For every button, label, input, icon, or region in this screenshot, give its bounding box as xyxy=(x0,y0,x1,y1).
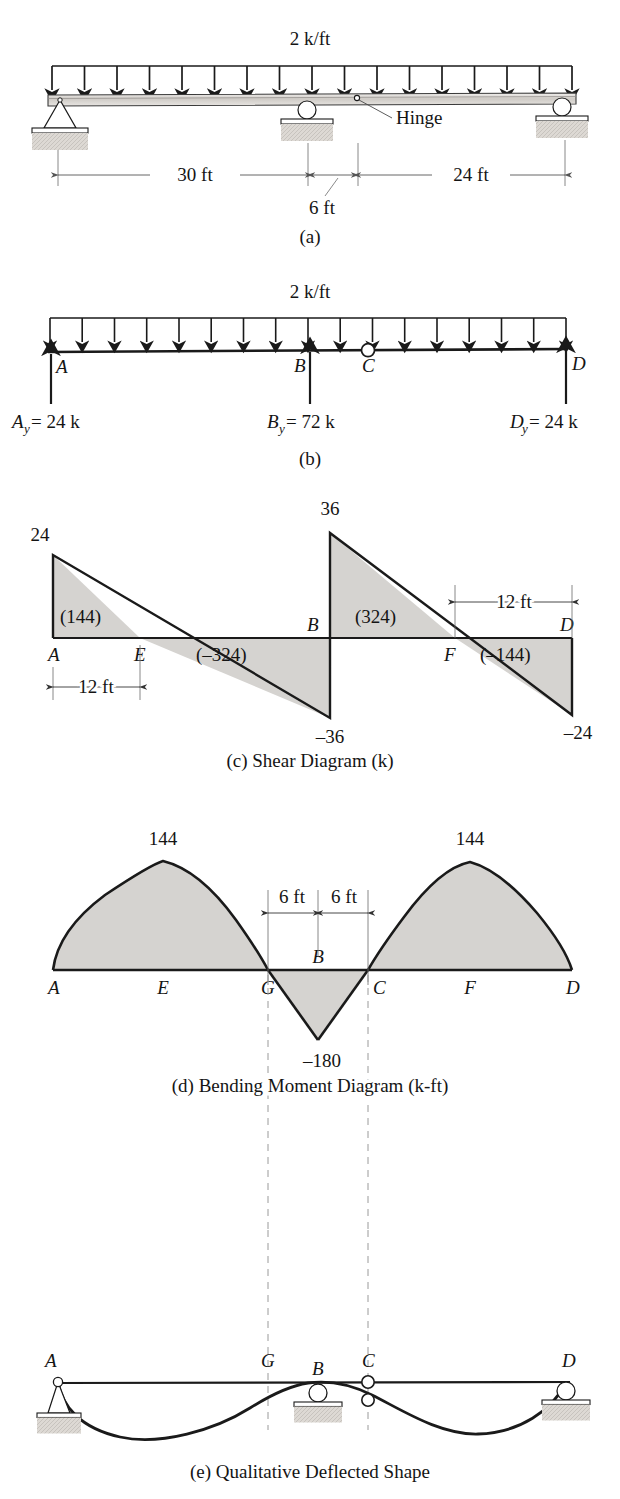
shear-dim-right-label: 12 ft xyxy=(496,591,532,612)
reaction-label-ay: A y = 24 k xyxy=(10,411,80,436)
moment-point-e: E xyxy=(156,977,169,998)
joint-label-d: D xyxy=(571,353,586,374)
shear-dim-left-label: 12 ft xyxy=(78,676,114,697)
pin-support-a-e xyxy=(37,1377,81,1433)
shear-area-label-2: (–324) xyxy=(196,644,247,666)
dimension-24ft: 24 ft xyxy=(358,164,565,185)
shear-dimension-right: 12 ft xyxy=(455,585,572,638)
panel-e-deflected-shape: A G B C D (e) Qualitative Deflected Shap… xyxy=(0,1230,620,1499)
moment-point-a: A xyxy=(46,977,60,998)
dimension-6ft: 6 ft xyxy=(309,175,354,218)
reaction-label-by: B y = 72 k xyxy=(267,411,335,436)
hinge-label: Hinge xyxy=(396,107,442,128)
reaction-ay-base: A xyxy=(10,411,24,432)
panel-d-moment-diagram: 144 144 –180 A E G B C F D 6 ft 6 ft (d)… xyxy=(0,785,620,1230)
panel-b-load-label: 2 k/ft xyxy=(290,281,331,302)
reaction-ay-sub: y xyxy=(22,421,30,436)
panel-a-load-label: 2 k/ft xyxy=(290,28,331,49)
reaction-dy-sub: y xyxy=(520,421,528,436)
reaction-by-value: = 72 k xyxy=(286,411,335,432)
shear-point-e: E xyxy=(133,644,146,665)
dimension-witness-lines xyxy=(58,140,565,186)
panel-c-shear-diagram: 24 36 –36 –24 (144) (–324) (324) (–144) … xyxy=(0,475,620,785)
shear-peak-b-bottom-label: –36 xyxy=(315,726,345,747)
shear-peak-d-label: –24 xyxy=(563,722,593,743)
reaction-label-dy: D y = 24 k xyxy=(509,411,578,436)
joint-label-c: C xyxy=(362,355,375,376)
moment-peak-left-label: 144 xyxy=(149,828,178,849)
shear-point-b: B xyxy=(307,614,319,635)
joint-label-a: A xyxy=(54,356,68,377)
roller-support-b-e xyxy=(294,1384,342,1423)
reaction-by-sub: y xyxy=(277,421,285,436)
dimension-6ft-label: 6 ft xyxy=(309,197,336,218)
moment-dim-left-label: 6 ft xyxy=(279,886,306,907)
panel-e-caption: (e) Qualitative Deflected Shape xyxy=(190,1461,430,1483)
distributed-load-arrows-b xyxy=(50,318,566,342)
dimension-30ft-label: 30 ft xyxy=(177,164,213,185)
moment-point-c: C xyxy=(373,977,386,998)
deflected-point-a: A xyxy=(43,1350,57,1371)
reaction-ay-value: = 24 k xyxy=(31,411,80,432)
moment-peak-right-label: 144 xyxy=(456,828,485,849)
panel-b-free-body-diagram: 2 k/ft A B C D xyxy=(0,250,620,475)
deflected-point-b: B xyxy=(312,1358,324,1379)
deflected-point-d: D xyxy=(561,1350,576,1371)
shear-area-label-4: (–144) xyxy=(480,644,531,666)
shear-area-label-3: (324) xyxy=(355,606,396,628)
roller-support-b xyxy=(281,101,333,141)
panel-a-loading-diagram: 2 k/ft Hinge xyxy=(0,0,620,250)
reaction-arrows xyxy=(51,351,566,404)
shear-peak-b-top-label: 36 xyxy=(321,498,340,519)
shear-dimension-left: 12 ft xyxy=(53,645,140,700)
dimension-24ft-label: 24 ft xyxy=(453,164,489,185)
reaction-dy-value: = 24 k xyxy=(529,411,578,432)
dimension-30ft: 30 ft xyxy=(58,164,308,185)
panel-d-caption: (d) Bending Moment Diagram (k-ft) xyxy=(172,1075,448,1097)
roller-support-d-e xyxy=(542,1382,590,1421)
reaction-by-base: B xyxy=(267,411,279,432)
panel-b-caption: (b) xyxy=(299,448,321,470)
panel-c-caption: (c) Shear Diagram (k) xyxy=(226,750,393,772)
moment-min-label: –180 xyxy=(302,1050,341,1071)
distributed-load-arrows xyxy=(52,66,572,90)
shear-area-label-1: (144) xyxy=(60,606,101,628)
joint-label-b: B xyxy=(294,355,306,376)
shear-point-a: A xyxy=(46,644,60,665)
moment-point-f: F xyxy=(463,977,476,998)
moment-point-d: D xyxy=(565,977,580,998)
panel-a-caption: (a) xyxy=(299,226,320,248)
beam-line-b xyxy=(48,349,568,352)
moment-dim-right-label: 6 ft xyxy=(331,886,358,907)
shear-point-f: F xyxy=(443,644,456,665)
deflected-point-g: G xyxy=(261,1350,275,1371)
deflected-point-c: C xyxy=(362,1350,375,1371)
shear-peak-a-label: 24 xyxy=(31,524,51,545)
